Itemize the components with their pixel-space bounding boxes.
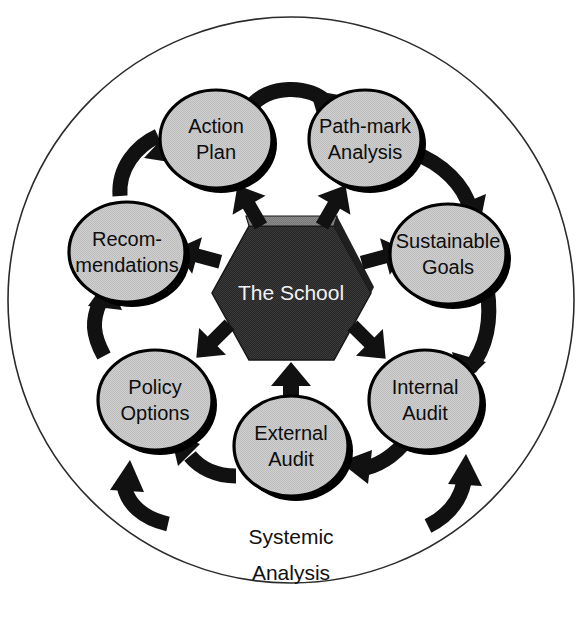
node-label-line2: Audit: [402, 402, 448, 424]
node-label-line2: Plan: [196, 141, 236, 163]
node-label-line2: Audit: [268, 448, 314, 470]
node-label-line1: Sustainable: [396, 230, 501, 252]
node-label-line1: Internal: [392, 376, 459, 398]
node-label-line1: Action: [188, 115, 244, 137]
node-recommendations[interactable]: Recom- mendations: [69, 202, 190, 307]
cycle-diagram-canvas: The School: [0, 0, 583, 625]
systemic-analysis-diagram: The School: [0, 0, 583, 625]
node-body: [369, 350, 481, 450]
center-hexagon-label: The School: [238, 281, 344, 304]
node-body: [69, 202, 185, 302]
center-hexagon: The School: [212, 216, 374, 360]
node-label-line2: Analysis: [328, 141, 402, 163]
node-path-mark-analysis[interactable]: Path-mark Analysis: [309, 90, 426, 193]
node-label-line1: Path-mark: [319, 115, 412, 137]
node-label-line1: Recom-: [92, 228, 162, 250]
caption-line2: Analysis: [252, 561, 330, 584]
ring-arrow-outer-bottom-left: [110, 460, 168, 524]
caption-line1: Systemic: [248, 525, 333, 548]
node-label-line2: Options: [121, 402, 190, 424]
node-label-line2: Goals: [422, 256, 474, 278]
node-body: [98, 350, 212, 450]
node-label-line2: mendations: [75, 254, 178, 276]
node-label-line1: External: [254, 422, 327, 444]
node-label-line1: Policy: [128, 376, 181, 398]
node-sustainable-goals[interactable]: Sustainable Goals: [390, 204, 511, 309]
node-policy-options[interactable]: Policy Options: [98, 350, 217, 455]
diagram-caption: Systemic Analysis: [248, 525, 333, 584]
node-body: [160, 90, 272, 188]
node-body: [234, 396, 348, 496]
node-body: [309, 90, 421, 188]
node-external-audit[interactable]: External Audit: [234, 396, 353, 501]
node-body: [390, 204, 506, 304]
